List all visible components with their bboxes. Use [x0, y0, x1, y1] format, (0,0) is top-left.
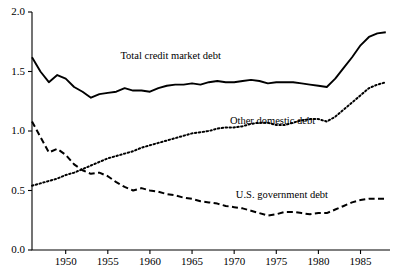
chart-canvas	[0, 0, 406, 271]
series-label-1: Other domestic debt	[230, 115, 315, 126]
x-tick-label: 1975	[252, 256, 300, 267]
y-tick-label: 1.0	[0, 125, 25, 136]
y-tick-label: 0.5	[0, 185, 25, 196]
y-tick-label: 2.0	[0, 6, 25, 17]
chart-figure: 0.00.51.01.52.01950195519601965197019751…	[0, 0, 406, 271]
x-tick-label: 1950	[42, 256, 90, 267]
series-line-1	[32, 82, 386, 186]
x-tick-label: 1960	[126, 256, 174, 267]
y-tick-label: 0.0	[0, 244, 25, 255]
x-tick-label: 1965	[168, 256, 216, 267]
x-tick-label: 1970	[210, 256, 258, 267]
y-tick-label: 1.5	[0, 66, 25, 77]
x-tick-label: 1955	[84, 256, 132, 267]
series-label-0: Total credit market debt	[120, 50, 220, 61]
x-tick-label: 1980	[294, 256, 342, 267]
x-tick-label: 1985	[337, 256, 385, 267]
series-line-0	[32, 32, 386, 97]
series-label-2: U.S. government debt	[236, 189, 328, 200]
